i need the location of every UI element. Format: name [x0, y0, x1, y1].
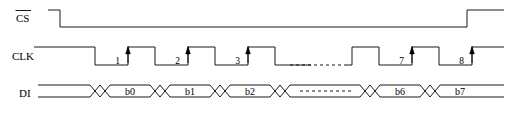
di-cell-b1-label: b1 [185, 86, 195, 97]
signal-label-cs: CS [16, 12, 29, 24]
clk-edge-marker-8: 8 [459, 46, 474, 66]
clk-edge-number-7: 7 [399, 56, 404, 66]
cs-waveform [48, 10, 504, 27]
di-cell-b0-label: b0 [125, 86, 135, 97]
signal-label-di: DI [19, 87, 31, 99]
di-cell-b6-label: b6 [395, 86, 405, 97]
clk-edge-marker-2: 2 [175, 46, 190, 66]
di-cell-b2-label: b2 [245, 86, 255, 97]
signal-row-di: DI b0 b1 b2 b6 b7 [19, 85, 504, 99]
clk-edge-marker-1: 1 [115, 46, 130, 66]
clk-edge-marker-7: 7 [399, 46, 414, 66]
clk-edge-number-1: 1 [115, 56, 120, 66]
clk-edge-number-3: 3 [235, 56, 240, 66]
di-cell-b7-label: b7 [455, 86, 465, 97]
clk-waveform-left [34, 47, 311, 65]
signal-label-clk: CLK [12, 50, 34, 62]
clk-waveform-right [345, 47, 504, 65]
clk-edge-marker-3: 3 [235, 46, 250, 66]
timing-diagram: CS CLK 1 2 [0, 0, 512, 113]
signal-row-cs: CS [16, 10, 505, 27]
clk-edge-number-2: 2 [175, 56, 180, 66]
signal-row-clk: CLK 1 2 3 [12, 46, 504, 66]
clk-edge-number-8: 8 [459, 56, 464, 66]
